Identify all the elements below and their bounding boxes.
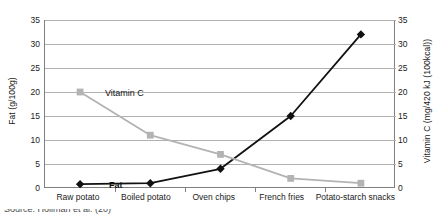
y-axis-right-title: Vitamin C (mg/420 kJ (100kcal)) bbox=[422, 21, 432, 181]
x-category-label: Boiled potato bbox=[112, 192, 180, 208]
figure-caption-strip: Source: Hollman et al. (20) bbox=[0, 209, 433, 217]
data-point-marker bbox=[146, 179, 154, 187]
y-right-tick: 25 bbox=[398, 64, 420, 73]
series-layer bbox=[76, 30, 365, 188]
x-axis-category-labels: Raw potato Boiled potato Oven chips Fren… bbox=[44, 192, 395, 208]
x-category-label: Oven chips bbox=[180, 192, 248, 208]
y-left-tick: 20 bbox=[18, 88, 40, 97]
data-point-marker bbox=[358, 180, 365, 187]
series-line bbox=[80, 34, 361, 184]
figure-caption: Source: Hollman et al. (20) bbox=[4, 209, 111, 214]
x-category-label: French fries bbox=[248, 192, 316, 208]
plot-area: Vitamin C Fat bbox=[44, 20, 395, 188]
y-right-tick: 15 bbox=[398, 112, 420, 121]
y-left-tick: 0 bbox=[18, 184, 40, 193]
y-right-tick: 35 bbox=[398, 16, 420, 25]
y-axis-right-ticks: 35 30 25 20 15 10 5 0 bbox=[398, 0, 420, 217]
data-point-marker bbox=[287, 175, 294, 182]
y-axis-left-title: Fat (g/100g) bbox=[7, 56, 17, 146]
y-right-tick: 0 bbox=[398, 184, 420, 193]
y-left-tick: 10 bbox=[18, 136, 40, 145]
y-right-tick: 20 bbox=[398, 88, 420, 97]
data-point-marker bbox=[76, 180, 84, 188]
chart-canvas bbox=[45, 20, 396, 188]
y-left-tick: 25 bbox=[18, 64, 40, 73]
series-label-vitamin-c: Vitamin C bbox=[105, 88, 144, 98]
y-axis-left-ticks: 35 30 25 20 15 10 5 0 bbox=[18, 0, 40, 217]
data-point-marker bbox=[147, 132, 154, 139]
data-point-marker bbox=[77, 89, 84, 96]
series-label-fat: Fat bbox=[109, 180, 123, 190]
x-category-label: Raw potato bbox=[44, 192, 112, 208]
data-point-marker bbox=[217, 151, 224, 158]
x-category-label: Potato-starch snacks bbox=[316, 192, 395, 208]
y-left-tick: 15 bbox=[18, 112, 40, 121]
series-fat bbox=[76, 30, 365, 188]
y-right-tick: 30 bbox=[398, 40, 420, 49]
gridlines bbox=[45, 20, 396, 164]
y-left-tick: 5 bbox=[18, 160, 40, 169]
y-left-tick: 35 bbox=[18, 16, 40, 25]
chart-figure: Fat (g/100g) Vitamin C (mg/420 kJ (100kc… bbox=[0, 0, 433, 217]
y-left-tick: 30 bbox=[18, 40, 40, 49]
y-right-tick: 10 bbox=[398, 136, 420, 145]
y-right-tick: 5 bbox=[398, 160, 420, 169]
